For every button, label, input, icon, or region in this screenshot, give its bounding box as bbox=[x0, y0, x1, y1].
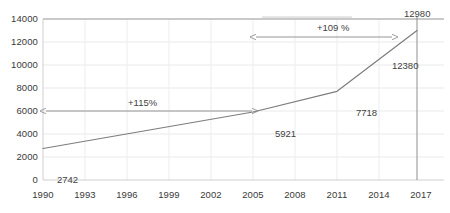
x-tick-2005: 2005 bbox=[233, 189, 273, 200]
x-tick-2017: 2017 bbox=[401, 189, 441, 200]
x-tick-2002: 2002 bbox=[191, 189, 231, 200]
y-tick-2000: 2000 bbox=[0, 151, 38, 162]
data-label-12380: 12380 bbox=[392, 60, 418, 71]
x-tick-1996: 1996 bbox=[107, 189, 147, 200]
data-label-2742: 2742 bbox=[57, 174, 78, 185]
y-tick-10000: 10000 bbox=[0, 59, 38, 70]
horizontal-gridlines bbox=[43, 19, 444, 157]
y-tick-0: 0 bbox=[0, 174, 38, 185]
data-label-12980: 12980 bbox=[404, 8, 430, 19]
y-tick-8000: 8000 bbox=[0, 82, 38, 93]
y-tick-14000: 14000 bbox=[0, 13, 38, 24]
y-tick-6000: 6000 bbox=[0, 105, 38, 116]
y-tick-4000: 4000 bbox=[0, 128, 38, 139]
line-chart: 14000 12000 10000 8000 6000 4000 2000 0 … bbox=[0, 0, 450, 213]
annotation-label-second: +109 % bbox=[317, 22, 350, 33]
data-line-series bbox=[43, 31, 417, 149]
data-label-7718: 7718 bbox=[356, 107, 377, 118]
x-tick-2008: 2008 bbox=[275, 189, 315, 200]
annotation-label-first: +115% bbox=[128, 97, 157, 108]
x-tick-1993: 1993 bbox=[65, 189, 105, 200]
x-tick-2014: 2014 bbox=[359, 189, 399, 200]
data-label-5921: 5921 bbox=[275, 128, 296, 139]
y-tick-12000: 12000 bbox=[0, 36, 38, 47]
x-tick-2011: 2011 bbox=[317, 189, 357, 200]
x-tick-1999: 1999 bbox=[149, 189, 189, 200]
x-tick-1990: 1990 bbox=[23, 189, 63, 200]
